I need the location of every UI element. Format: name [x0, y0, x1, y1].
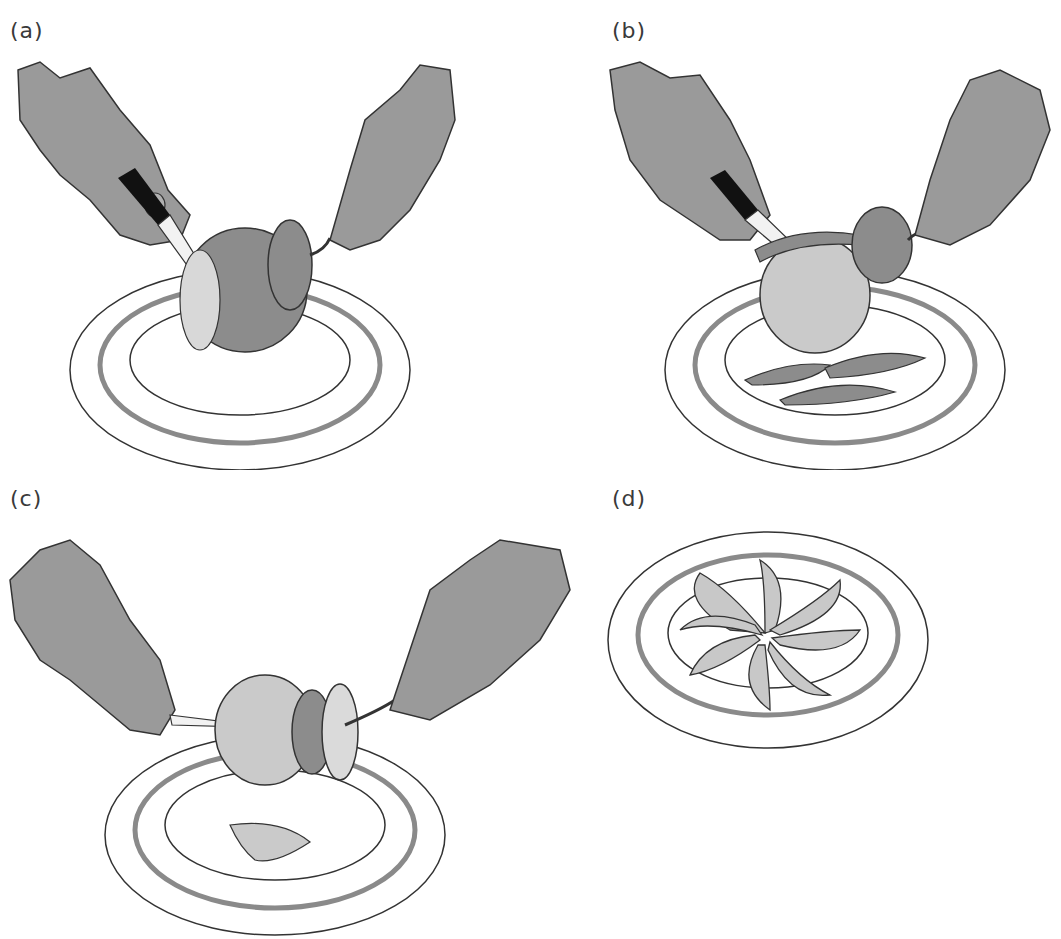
orange-segmenting-illustration-c: [0, 470, 600, 939]
orange-pinwheel-illustration-d: [530, 470, 1061, 939]
plate-icon: [608, 532, 928, 748]
panel-d: (d): [530, 470, 1061, 939]
orange-peeling-illustration-a: [0, 0, 520, 470]
fork-icon: [310, 238, 330, 255]
panel-c: (c): [0, 470, 600, 939]
peel-cap-icon: [852, 207, 912, 283]
panel-a: (a): [0, 0, 520, 470]
left-hand-icon: [10, 540, 175, 735]
right-hand-icon: [330, 65, 455, 250]
panel-b: (b): [530, 0, 1061, 470]
orange-segment-icon: [230, 823, 310, 860]
peel-cap-icon: [268, 220, 312, 310]
orange-peeling-illustration-b: [530, 0, 1061, 470]
orange-slice-icon: [322, 684, 358, 780]
peel-strips-icon: [745, 353, 925, 405]
right-hand-icon: [915, 70, 1050, 245]
